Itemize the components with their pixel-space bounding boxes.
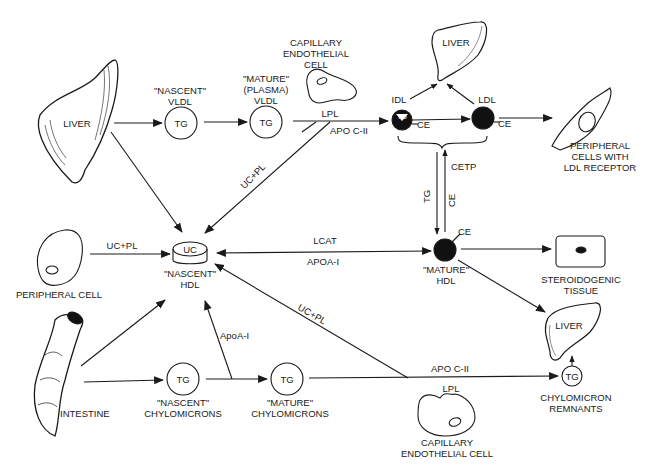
nascent-hdl-title: "NASCENT" HDL: [164, 268, 216, 290]
mature-vldl-core: TG: [259, 117, 272, 128]
chylo-remnants-core: TG: [565, 371, 578, 382]
arrow-chylo-uc-pl-to-hdl: [215, 264, 408, 378]
nascent-chylo-title: "NASCENT" CHYLOMICRONS: [144, 397, 222, 419]
apoc2-top-label: APO C-II: [330, 125, 368, 136]
mature-hdl-ce-label: CE: [458, 226, 471, 237]
ldl-ce-label: CE: [498, 118, 511, 129]
cetp-label: CETP: [451, 161, 476, 172]
arrow-intestine-to-hdl: [81, 300, 165, 366]
ce-up-label: CE: [446, 194, 457, 207]
apoa1-hdl-label: APOA-I: [307, 256, 339, 267]
nascent-chylo-core: TG: [176, 374, 189, 385]
nascent-hdl-core: UC: [183, 244, 197, 255]
capillary-endothelial-cell-top-icon: [307, 69, 357, 103]
arrow-hdl-to-liver: [458, 260, 545, 312]
capillary-bottom-label: CAPILLARY ENDOTHELIAL CELL: [401, 437, 493, 459]
peripheral-cell-label: PERIPHERAL CELL: [16, 289, 102, 300]
intestine-label: INTESTINE: [60, 408, 110, 419]
mature-hdl-title: "MATURE" HDL: [423, 264, 469, 286]
arrow-hdl-lcat-bidirectional: [217, 251, 431, 253]
peripheral-cell-icon: [37, 230, 82, 285]
nascent-vldl-title: "NASCENT" VLDL: [154, 85, 206, 107]
apoa1-chylo-label: ApoA-I: [220, 330, 249, 341]
nascent-vldl-core: TG: [174, 118, 187, 129]
arrow-idl-to-liver: [410, 84, 437, 99]
idl-ldl-brace: [398, 136, 487, 148]
arrow-mature-chylo-to-remnants: [309, 376, 558, 378]
capillary-endothelial-cell-bottom-icon: [418, 394, 475, 436]
idl-title: IDL: [392, 94, 407, 105]
ldl-title: LDL: [478, 94, 495, 105]
liver-right-label: LIVER: [555, 320, 582, 331]
apoc2-bottom-label: APO C-II: [431, 363, 469, 374]
liver-right-icon: [545, 303, 600, 360]
arrow-liver-to-nascent-hdl: [111, 132, 182, 232]
steroidogenic-label: STEROIDOGENIC TISSUE: [541, 274, 621, 296]
peripheral-ldl-cells-label: PERIPHERAL CELLS WITH LDL RECEPTOR: [564, 140, 636, 173]
ldl-particle: [472, 107, 494, 129]
tg-down-label: TG: [421, 190, 432, 203]
lcat-label: LCAT: [313, 235, 337, 246]
lpl-bottom-label: LPL: [443, 383, 460, 394]
idl-ce-label: CE: [417, 119, 430, 130]
liver-top-label: LIVER: [442, 37, 469, 48]
liver-top-icon: [432, 22, 487, 81]
arrow-vldl-uc-pl-to-hdl: [205, 122, 330, 233]
lipoprotein-metabolism-diagram: LIVER LIVER LIVER INTESTINE PERIPHERAL C…: [0, 0, 651, 469]
mature-hdl-particle: [434, 239, 456, 261]
arrow-ldl-to-liver: [447, 84, 474, 104]
liver-main-label: LIVER: [63, 118, 90, 129]
idl-core: TG: [397, 113, 407, 120]
chylo-remnants-title: CHYLOMICRON REMNANTS: [540, 392, 611, 414]
arrow-intestine-to-nascent-chylo: [84, 380, 163, 382]
mature-vldl-title: "MATURE" (PLASMA) VLDL: [243, 73, 289, 106]
mature-chylo-core: TG: [280, 374, 293, 385]
mature-chylo-title: "MATURE" CHYLOMICRONS: [251, 397, 329, 419]
uc-pl-peripheral-label: UC+PL: [107, 240, 138, 251]
lpl-top-label: LPL: [322, 108, 339, 119]
capillary-top-label: CAPILLARY ENDOTHELIAL CELL: [283, 37, 349, 70]
